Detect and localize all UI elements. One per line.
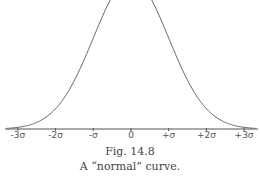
normal-curve-chart [0,0,260,140]
x-tick-label: -2σ [48,130,63,140]
x-tick-label: +2σ [197,130,216,140]
x-tick-label: -σ [89,130,98,140]
bell-curve [7,0,256,128]
x-tick-label: +3σ [235,130,254,140]
x-tick-label: -3σ [11,130,26,140]
x-tick-label: +σ [162,130,175,140]
figure-caption: A “normal” curve. [0,160,260,173]
x-tick-label: 0 [128,130,134,140]
figure-number: Fig. 14.8 [0,145,260,158]
